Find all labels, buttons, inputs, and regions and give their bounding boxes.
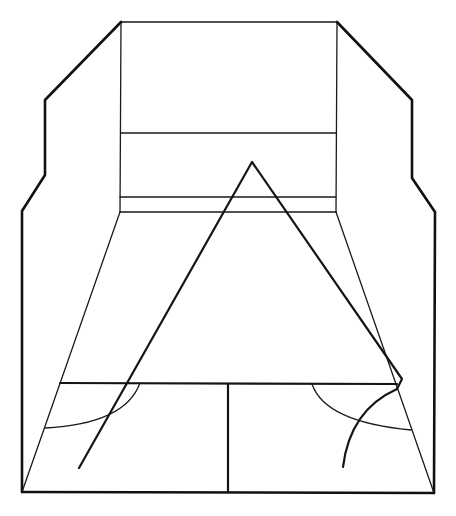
ball-trajectory (79, 162, 402, 468)
left-floor-edge (22, 212, 120, 492)
left-service-box-arc (45, 383, 140, 428)
court-floor (22, 212, 434, 493)
right-service-box-arc (312, 384, 411, 430)
front-wall-left-edge (120, 22, 121, 212)
front-wall (120, 22, 337, 212)
front-wall-right-edge (336, 22, 337, 212)
squash-court-diagram (0, 0, 456, 516)
